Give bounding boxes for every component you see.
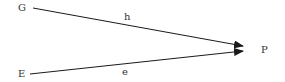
node-e-label: E	[18, 69, 25, 79]
node-p-label: P	[261, 45, 268, 55]
diagram-canvas: G E P h e	[0, 0, 285, 82]
edge-e-label: e	[122, 67, 128, 77]
edge-e-to-p-arrow	[30, 51, 243, 74]
edge-h-label: h	[124, 12, 130, 22]
edges-layer	[0, 0, 285, 82]
node-g-label: G	[18, 3, 26, 13]
edge-g-to-p-arrow	[33, 8, 243, 46]
